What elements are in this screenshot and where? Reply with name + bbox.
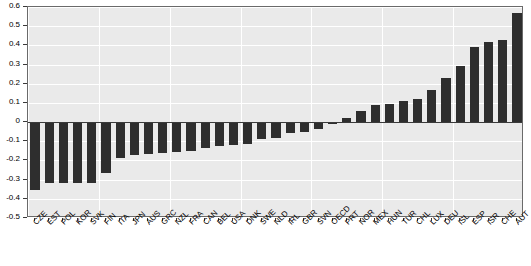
bar: [73, 122, 82, 182]
y-tick-label: 0: [16, 117, 20, 125]
bar: [484, 42, 493, 123]
y-tick-label: 0.5: [9, 21, 20, 29]
bar: [356, 111, 365, 123]
bar: [229, 122, 238, 145]
bar: [144, 122, 153, 154]
y-tick-label: 0.2: [9, 79, 20, 87]
y-tick-label: 0.4: [9, 40, 20, 48]
bar: [45, 122, 54, 183]
bar: [427, 90, 436, 122]
bar: [300, 122, 309, 132]
bar: [456, 66, 465, 123]
bar: [385, 104, 394, 122]
bars-layer: [28, 7, 522, 216]
y-tick-label: -0.3: [6, 175, 20, 183]
y-tick-label: -0.4: [6, 194, 20, 202]
y-tick-label: 0.6: [9, 2, 20, 10]
bar: [371, 105, 380, 122]
zero-baseline: [28, 122, 522, 123]
y-tick-label: -0.2: [6, 155, 20, 163]
bar: [172, 122, 181, 152]
bar: [399, 101, 408, 122]
bar: [130, 122, 139, 155]
y-tick-label: 0.1: [9, 98, 20, 106]
y-tick-label: -0.5: [6, 213, 20, 221]
bar: [158, 122, 167, 153]
bar: [286, 122, 295, 133]
x-axis: CZEESTPOLKORSVKFINITAJPNAUSGRCNZLFRACANB…: [27, 218, 523, 266]
bar: [314, 122, 323, 129]
bar: [30, 122, 39, 190]
y-tick-label: -0.1: [6, 136, 20, 144]
bar: [271, 122, 280, 138]
bar: [87, 122, 96, 183]
bar: [470, 47, 479, 122]
bar: [215, 122, 224, 146]
bar: [413, 99, 422, 122]
bar: [498, 40, 507, 122]
bar: [116, 122, 125, 157]
bar: [441, 78, 450, 122]
bar: [243, 122, 252, 144]
y-tick-label: 0.3: [9, 60, 20, 68]
bar: [59, 122, 68, 183]
bar: [512, 13, 521, 122]
bar: [201, 122, 210, 148]
bar: [186, 122, 195, 151]
bar: [257, 122, 266, 139]
plot-area: [27, 6, 523, 217]
bar: [101, 122, 110, 173]
y-axis: 0.60.50.40.30.20.10-0.1-0.2-0.3-0.4-0.5: [0, 0, 27, 217]
